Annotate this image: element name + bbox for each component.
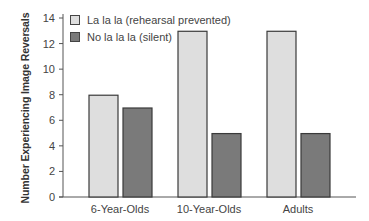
- bar-chart: Number Experiencing Image Reversals 0246…: [0, 0, 369, 221]
- legend-label: La la la (rehearsal prevented): [87, 14, 231, 26]
- y-tick-label: 4: [35, 140, 55, 152]
- y-tick-label: 14: [35, 12, 55, 24]
- y-tick-label: 2: [35, 165, 55, 177]
- bar-rehearsal-prevented: [178, 31, 207, 197]
- bar-rehearsal-prevented: [89, 95, 118, 197]
- legend-item-rehearsal-prevented: La la la (rehearsal prevented): [70, 11, 231, 28]
- x-category-label: 10-Year-Olds: [177, 203, 241, 215]
- bar-silent: [123, 108, 152, 197]
- legend-label: No la la la (silent): [87, 31, 172, 43]
- y-tick-label: 10: [35, 63, 55, 75]
- legend: La la la (rehearsal prevented) No la la …: [70, 11, 231, 45]
- y-tick-label: 12: [35, 38, 55, 50]
- legend-swatch-light: [70, 15, 80, 25]
- y-tick-label: 8: [35, 89, 55, 101]
- y-tick-label: 6: [35, 114, 55, 126]
- legend-item-silent: No la la la (silent): [70, 28, 231, 45]
- bar-silent: [212, 134, 241, 197]
- x-category-label: Adults: [283, 203, 314, 215]
- bar-silent: [301, 134, 330, 197]
- y-axis-label: Number Experiencing Image Reversals: [19, 13, 31, 204]
- x-category-label: 6-Year-Olds: [91, 203, 149, 215]
- y-tick-label: 0: [35, 191, 55, 203]
- bar-rehearsal-prevented: [267, 31, 296, 197]
- legend-swatch-dark: [70, 32, 80, 42]
